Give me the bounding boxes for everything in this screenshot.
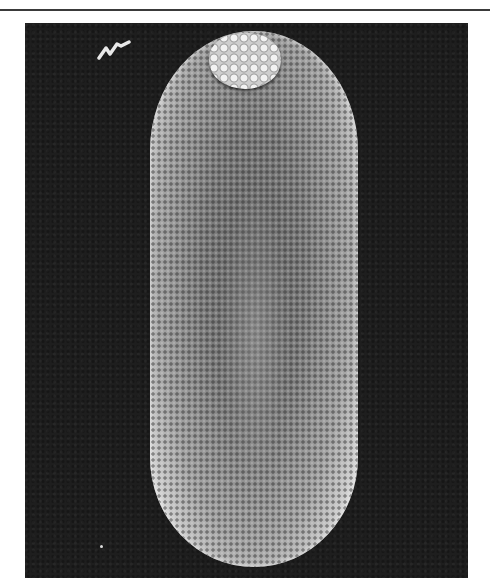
cropped-header-text	[130, 0, 390, 4]
micrograph-photo	[25, 23, 468, 578]
micropylar-cap	[209, 33, 281, 89]
egg-body	[150, 31, 358, 567]
debris-speck	[100, 545, 103, 548]
debris-squiggle	[97, 40, 131, 60]
header-rule	[0, 9, 490, 11]
